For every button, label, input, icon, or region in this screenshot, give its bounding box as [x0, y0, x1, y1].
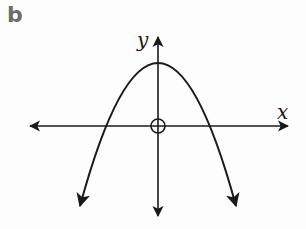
graph-figure: b y x: [0, 0, 306, 229]
x-axis-label: x: [277, 100, 288, 124]
graph-svg: [0, 0, 306, 229]
y-axis-label: y: [137, 28, 148, 52]
